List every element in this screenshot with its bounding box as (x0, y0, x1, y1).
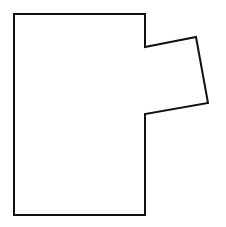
polygon-diagram (0, 0, 226, 227)
rectangle-with-tilted-tab-shape (14, 14, 208, 215)
diagram-canvas (0, 0, 226, 227)
